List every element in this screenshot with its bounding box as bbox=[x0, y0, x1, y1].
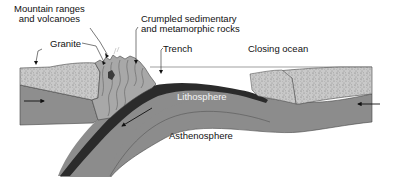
label-mountains-line2: and volcanoes bbox=[14, 14, 85, 24]
label-crumpled-line2: and metamorphic rocks bbox=[141, 24, 240, 34]
volcano-vent bbox=[114, 47, 119, 54]
label-granite: Granite bbox=[50, 39, 81, 49]
label-closing-ocean: Closing ocean bbox=[248, 44, 308, 54]
label-trench: Trench bbox=[163, 44, 192, 54]
label-mountain-ranges: Mountain ranges and volcanoes bbox=[14, 4, 85, 24]
label-crumpled-rocks: Crumpled sedimentary and metamorphic roc… bbox=[141, 14, 240, 34]
label-asthenosphere: Asthenosphere bbox=[169, 131, 233, 141]
label-lithosphere: Lithosphere bbox=[177, 92, 227, 102]
